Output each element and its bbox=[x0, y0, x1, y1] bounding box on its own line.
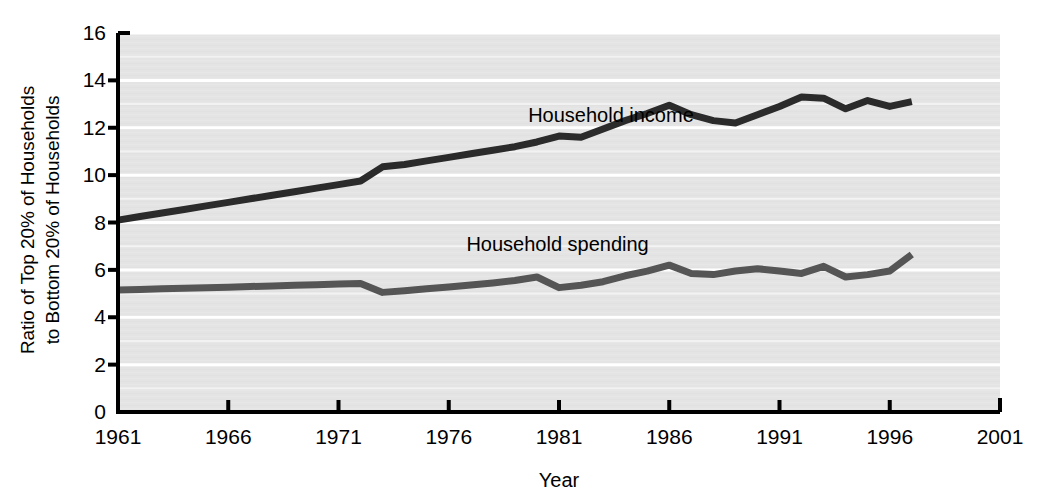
x-tick-label-1991: 1991 bbox=[730, 426, 830, 447]
y-tick-label-10: 10 bbox=[62, 164, 106, 185]
series-label-household-income: Household income bbox=[528, 105, 694, 125]
x-tick-label-1996: 1996 bbox=[840, 426, 940, 447]
x-tick-label-1961: 1961 bbox=[68, 426, 168, 447]
chart-container: Ratio of Top 20% of Households to Bottom… bbox=[0, 0, 1044, 499]
y-tick-label-8: 8 bbox=[62, 212, 106, 233]
series-label-household-spending: Household spending bbox=[466, 234, 648, 254]
y-tick-label-14: 14 bbox=[62, 69, 106, 90]
y-tick-label-2: 2 bbox=[62, 354, 106, 375]
y-tick-label-0: 0 bbox=[62, 401, 106, 422]
y-tick-label-6: 6 bbox=[62, 259, 106, 280]
x-tick-label-1976: 1976 bbox=[399, 426, 499, 447]
y-tick-label-12: 12 bbox=[62, 117, 106, 138]
x-axis-title: Year bbox=[459, 470, 659, 490]
x-tick-label-1981: 1981 bbox=[509, 426, 609, 447]
x-tick-label-2001: 2001 bbox=[950, 426, 1044, 447]
y-axis-title-line-1: Ratio of Top 20% of Households bbox=[15, 86, 40, 354]
x-tick-label-1971: 1971 bbox=[289, 426, 389, 447]
y-tick-label-4: 4 bbox=[62, 306, 106, 327]
x-tick-label-1986: 1986 bbox=[619, 426, 719, 447]
x-tick-label-1966: 1966 bbox=[178, 426, 278, 447]
y-tick-label-16: 16 bbox=[62, 22, 106, 43]
